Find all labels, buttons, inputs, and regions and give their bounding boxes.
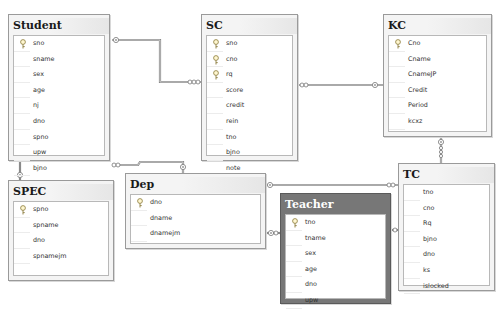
column-row[interactable]: dno <box>14 114 104 130</box>
column-row[interactable]: age <box>286 262 385 278</box>
table-title[interactable]: TC <box>399 167 494 183</box>
row-selector[interactable] <box>389 98 405 114</box>
column-row[interactable]: spnamejm <box>14 249 108 265</box>
column-row[interactable]: Period <box>389 98 486 114</box>
table-title[interactable]: KC <box>384 18 491 34</box>
column-row[interactable]: age <box>14 83 104 99</box>
row-selector[interactable] <box>207 36 223 52</box>
row-selector[interactable] <box>286 293 302 309</box>
table-dep[interactable]: Dep dnodnamednamejm <box>125 173 266 249</box>
row-selector[interactable] <box>207 52 223 68</box>
table-tc[interactable]: TC tnocnoRqbjnodnoksislocked <box>398 163 495 291</box>
column-row[interactable]: upw <box>286 293 385 309</box>
row-selector[interactable] <box>207 114 223 130</box>
row-selector[interactable] <box>286 262 302 278</box>
row-selector[interactable] <box>14 233 30 249</box>
column-row[interactable]: bjno <box>207 145 292 161</box>
column-row[interactable]: rq <box>207 67 292 83</box>
table-title[interactable]: SC <box>202 18 297 34</box>
column-row[interactable]: score <box>207 83 292 99</box>
column-row[interactable]: bjno <box>14 161 104 177</box>
table-kc[interactable]: KC CnoCnameCnameJPCreditPeriodkcxz <box>383 14 492 137</box>
row-selector[interactable] <box>131 195 147 211</box>
row-selector[interactable] <box>14 36 30 52</box>
row-selector[interactable] <box>404 247 420 263</box>
row-selector[interactable] <box>14 114 30 130</box>
table-teacher[interactable]: Teacher tnotnamesexagednoupw <box>280 193 391 304</box>
row-selector[interactable] <box>207 145 223 161</box>
row-selector[interactable] <box>389 114 405 130</box>
row-selector[interactable] <box>389 83 405 99</box>
row-selector[interactable] <box>207 130 223 146</box>
row-selector[interactable] <box>14 161 30 177</box>
column-row[interactable]: tno <box>404 185 489 201</box>
column-row[interactable]: dname <box>131 211 260 227</box>
column-row[interactable]: Rq <box>404 216 489 232</box>
column-row[interactable]: dnamejm <box>131 226 260 242</box>
row-selector[interactable] <box>14 218 30 234</box>
column-row[interactable]: Cname <box>389 52 486 68</box>
column-row[interactable]: tno <box>286 215 385 231</box>
column-row[interactable]: dno <box>131 195 260 211</box>
row-selector[interactable] <box>14 202 30 218</box>
row-selector[interactable] <box>286 231 302 247</box>
column-row[interactable]: upw <box>14 145 104 161</box>
column-row[interactable]: dno <box>14 233 108 249</box>
column-row[interactable]: tno <box>207 130 292 146</box>
column-row[interactable]: sex <box>286 246 385 262</box>
table-title[interactable]: Teacher <box>281 197 390 213</box>
column-row[interactable]: sno <box>207 36 292 52</box>
row-selector[interactable] <box>286 277 302 293</box>
column-row[interactable]: rein <box>207 114 292 130</box>
column-row[interactable]: spno <box>14 202 108 218</box>
column-row[interactable]: sname <box>14 52 104 68</box>
column-row[interactable]: tname <box>286 231 385 247</box>
row-selector[interactable] <box>14 83 30 99</box>
row-selector[interactable] <box>14 145 30 161</box>
column-row[interactable]: spno <box>14 130 104 146</box>
row-selector[interactable] <box>389 67 405 83</box>
column-row[interactable]: Cno <box>389 36 486 52</box>
column-row[interactable]: kcxz <box>389 114 486 130</box>
row-selector[interactable] <box>207 67 223 83</box>
row-selector[interactable] <box>14 249 30 265</box>
column-row[interactable]: bjno <box>404 232 489 248</box>
column-row[interactable]: dno <box>286 277 385 293</box>
table-spec[interactable]: SPEC spnospnamednospnamejm <box>8 180 114 281</box>
column-row[interactable]: cno <box>207 52 292 68</box>
row-selector[interactable] <box>14 98 30 114</box>
row-selector[interactable] <box>14 67 30 83</box>
row-selector[interactable] <box>207 98 223 114</box>
column-row[interactable]: dno <box>404 247 489 263</box>
column-row[interactable]: cno <box>404 201 489 217</box>
row-selector[interactable] <box>286 246 302 262</box>
row-selector[interactable] <box>404 216 420 232</box>
row-selector[interactable] <box>131 226 147 242</box>
row-selector[interactable] <box>286 215 302 231</box>
column-row[interactable]: ks <box>404 263 489 279</box>
row-selector[interactable] <box>131 211 147 227</box>
row-selector[interactable] <box>404 185 420 201</box>
column-row[interactable]: CnameJP <box>389 67 486 83</box>
column-row[interactable]: credit <box>207 98 292 114</box>
row-selector[interactable] <box>14 52 30 68</box>
column-row[interactable]: nj <box>14 98 104 114</box>
row-selector[interactable] <box>404 232 420 248</box>
row-selector[interactable] <box>389 52 405 68</box>
table-title[interactable]: SPEC <box>9 184 113 200</box>
table-sc[interactable]: SC snocnorqscorecreditreintnobjnonote <box>201 14 298 161</box>
column-row[interactable]: sno <box>14 36 104 52</box>
row-selector[interactable] <box>404 279 420 295</box>
table-title[interactable]: Dep <box>126 177 265 193</box>
column-row[interactable]: spname <box>14 218 108 234</box>
row-selector[interactable] <box>404 263 420 279</box>
table-student[interactable]: Student snosnamesexagenjdnospnoupwbjno <box>8 14 110 161</box>
row-selector[interactable] <box>207 83 223 99</box>
row-selector[interactable] <box>404 201 420 217</box>
row-selector[interactable] <box>14 130 30 146</box>
table-title[interactable]: Student <box>9 18 109 34</box>
column-row[interactable]: Credit <box>389 83 486 99</box>
row-selector[interactable] <box>389 36 405 52</box>
column-row[interactable]: islocked <box>404 279 489 295</box>
